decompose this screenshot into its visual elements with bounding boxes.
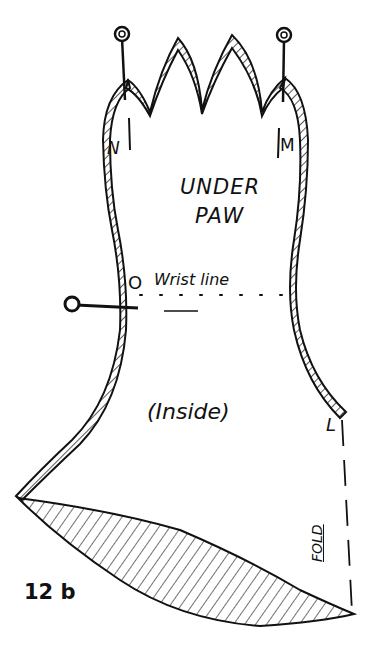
right-seam-allowance xyxy=(280,78,346,418)
tick-n xyxy=(129,118,130,150)
point-m-label: M xyxy=(280,137,295,154)
title-under: UNDER xyxy=(180,177,260,198)
wrist-line-label: Wrist line xyxy=(154,272,229,288)
scalloped-finger-tips xyxy=(126,35,285,116)
point-n-label: N xyxy=(107,140,120,157)
title-paw: PAW xyxy=(195,206,244,227)
pattern-diagram: UNDER PAW N M O Wrist line (Inside) L FO… xyxy=(0,0,368,645)
tick-m xyxy=(278,128,279,158)
bottom-curved-dart xyxy=(18,498,354,626)
point-o-label: O xyxy=(128,274,142,292)
wrist-line xyxy=(140,295,296,311)
fold-label: FOLD xyxy=(310,524,324,562)
figure-number: 12 b xyxy=(24,582,76,603)
inside-label: (Inside) xyxy=(147,401,230,423)
point-l-label: L xyxy=(326,416,336,434)
fold-line xyxy=(342,420,352,612)
